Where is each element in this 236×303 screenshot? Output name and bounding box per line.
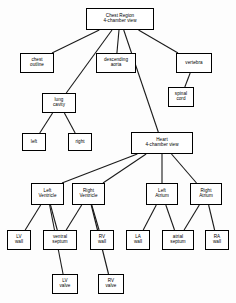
edge-lung-cavity-to-left-lung — [40, 113, 53, 133]
edge-left-ventricle-to-lv-wall — [25, 205, 40, 230]
node-ra-wall[interactable]: RAwall — [205, 230, 229, 250]
node-lv-wall[interactable]: LVwall — [7, 230, 31, 250]
node-label: right — [75, 140, 84, 145]
node-label: wall — [134, 240, 142, 245]
node-right-lung[interactable]: right — [68, 133, 92, 151]
edge-right-atrium-to-ra-wall — [209, 205, 215, 230]
node-heart[interactable]: Heart4-chamber view — [131, 132, 193, 154]
node-vertebra[interactable]: vertebra — [176, 53, 212, 73]
node-label: 4-chamber view — [103, 19, 136, 24]
node-atrial-septum[interactable]: atrialseptum — [162, 230, 194, 250]
edge-chest-region-to-vertebra — [139, 30, 179, 53]
node-chest-outline[interactable]: chestoutline — [20, 53, 54, 73]
edge-layer — [0, 0, 236, 303]
edge-chest-region-to-heart — [124, 30, 159, 132]
node-label: valve — [106, 284, 117, 289]
node-left-atrium[interactable]: LeftAtrium — [146, 183, 178, 205]
diagram-canvas: Chest Region4-chamber viewchestoutlinede… — [0, 0, 236, 303]
node-label: Atrium — [155, 194, 169, 199]
edge-right-ventricle-to-ventral-septum — [66, 205, 81, 230]
node-label: valve — [60, 284, 71, 289]
node-ventral-septum[interactable]: ventralseptum — [43, 230, 77, 250]
node-left-lung[interactable]: left — [22, 133, 46, 151]
node-right-ventricle[interactable]: RightVentricle — [72, 183, 105, 205]
node-label: wall — [98, 240, 106, 245]
node-rv-valve[interactable]: RVvalve — [98, 274, 124, 294]
edge-left-atrium-to-atrial-septum — [166, 205, 175, 230]
node-rv-wall[interactable]: RVwall — [90, 230, 114, 250]
node-label: outline — [30, 63, 44, 68]
node-label: Ventricle — [38, 194, 56, 199]
node-label: aorta — [111, 63, 122, 68]
node-label: 4-chamber view — [145, 143, 178, 148]
node-chest-region[interactable]: Chest Region4-chamber view — [86, 8, 154, 30]
node-label: cavity — [53, 103, 65, 108]
node-label: left — [31, 140, 37, 145]
node-la-wall[interactable]: LAwall — [126, 230, 150, 250]
edge-left-atrium-to-la-wall — [143, 205, 156, 230]
edge-chest-region-to-chest-outline — [52, 30, 99, 53]
node-label: wall — [15, 240, 23, 245]
node-right-atrium[interactable]: RightAtrium — [190, 183, 222, 205]
node-spinal-cord[interactable]: spinalcord — [168, 87, 194, 107]
node-descending-aorta[interactable]: descendingaorta — [96, 53, 136, 73]
edge-lung-cavity-to-right-lung — [64, 113, 75, 133]
edge-chest-region-to-descending-aorta — [117, 30, 119, 53]
node-lung-cavity[interactable]: lungcavity — [42, 93, 76, 113]
node-label: Ventricle — [79, 194, 97, 199]
node-left-ventricle[interactable]: LeftVentricle — [31, 183, 64, 205]
edge-heart-to-left-ventricle — [62, 154, 137, 183]
node-label: septum — [52, 240, 67, 245]
edge-right-ventricle-to-rv-wall — [92, 205, 99, 230]
edge-heart-to-right-atrium — [171, 154, 196, 183]
edge-vertebra-to-spinal-cord — [185, 73, 190, 87]
node-lv-valve[interactable]: LVvalve — [52, 274, 78, 294]
node-label: Atrium — [199, 194, 213, 199]
node-label: septum — [170, 240, 185, 245]
node-label: cord — [176, 97, 185, 102]
node-label: wall — [213, 240, 221, 245]
node-label: vertebra — [185, 61, 202, 66]
edge-right-atrium-to-atrial-septum — [184, 205, 199, 230]
